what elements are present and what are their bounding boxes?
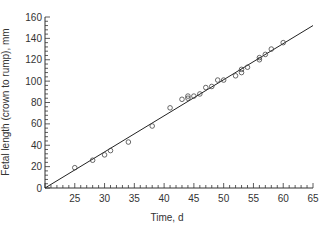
x-tick-label: 60 — [278, 193, 290, 204]
regression-line — [45, 26, 313, 188]
data-point — [215, 78, 220, 83]
fetal-length-chart: 253035404550556065020406080100120140160 … — [0, 0, 330, 228]
y-axis-label: Fetal length (crown to rump), mm — [0, 28, 11, 175]
x-tick-label: 40 — [159, 193, 171, 204]
y-tick-label: 80 — [31, 97, 43, 108]
y-tick-label: 40 — [31, 140, 43, 151]
y-tick-label: 100 — [25, 76, 42, 87]
data-point — [180, 97, 185, 102]
x-tick-label: 30 — [99, 193, 111, 204]
axes — [45, 17, 313, 188]
x-tick-label: 35 — [129, 193, 141, 204]
y-tick-label: 140 — [25, 33, 42, 44]
data-point — [150, 124, 155, 129]
data-point — [102, 153, 107, 158]
data-point — [72, 165, 77, 170]
data-point — [233, 73, 238, 78]
data-point — [204, 85, 209, 90]
y-tick-label: 120 — [25, 54, 42, 65]
axis-ticks — [45, 17, 313, 188]
y-tick-label: 60 — [31, 118, 43, 129]
data-point — [168, 106, 173, 111]
fit-line — [45, 26, 313, 188]
data-point — [126, 140, 131, 145]
x-tick-label: 45 — [188, 193, 200, 204]
x-tick-label: 25 — [69, 193, 81, 204]
x-tick-label: 50 — [218, 193, 230, 204]
x-tick-label: 55 — [248, 193, 260, 204]
y-tick-label: 0 — [36, 183, 42, 194]
data-points — [72, 40, 285, 170]
x-axis-label: Time, d — [151, 212, 184, 223]
x-tick-label: 65 — [307, 193, 319, 204]
y-tick-label: 160 — [25, 12, 42, 23]
data-point — [108, 148, 113, 153]
chart-canvas: 253035404550556065020406080100120140160 … — [0, 0, 330, 228]
y-tick-label: 20 — [31, 161, 43, 172]
